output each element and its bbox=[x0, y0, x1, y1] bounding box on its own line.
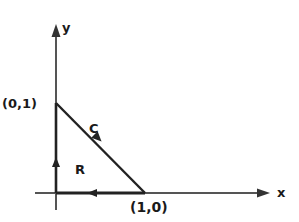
up-arrow-icon bbox=[52, 157, 60, 167]
triangle-region-diagram: y x (0,1) (1,0) C R bbox=[0, 0, 299, 222]
left-arrow-icon bbox=[87, 189, 97, 197]
point-label-1-0: (1,0) bbox=[130, 199, 168, 215]
x-axis-arrowhead-icon bbox=[257, 189, 270, 198]
y-axis-label: y bbox=[62, 20, 71, 35]
y-axis-arrowhead-icon bbox=[52, 24, 61, 37]
curve-label-c: C bbox=[89, 121, 99, 136]
region-label-r: R bbox=[75, 162, 85, 177]
boundary-curve-c bbox=[56, 103, 145, 193]
point-label-0-1: (0,1) bbox=[2, 96, 37, 111]
x-axis-label: x bbox=[277, 185, 286, 200]
